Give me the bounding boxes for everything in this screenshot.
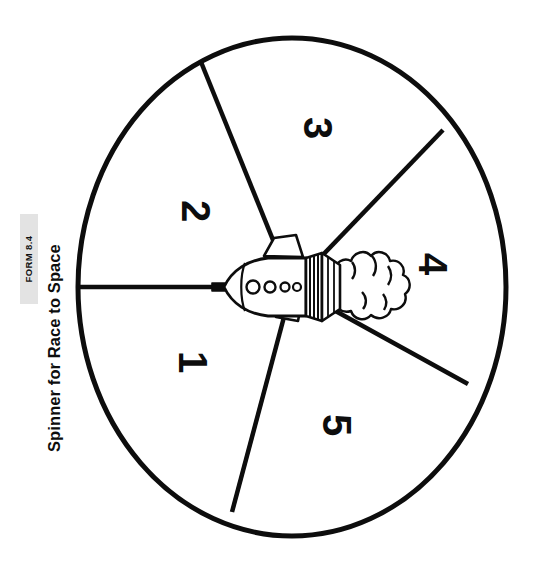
shuttle-window-4	[293, 283, 301, 291]
spinner-figure[interactable]: 1 2 3 4 5	[0, 0, 535, 568]
shuttle-window-1	[247, 281, 260, 294]
shuttle-window-2	[265, 282, 276, 293]
sector-label-1: 1	[171, 351, 215, 373]
page-canvas: FORM 8.4 Spinner for Race to Space	[0, 0, 535, 568]
shuttle-nozzle	[322, 253, 340, 321]
sector-label-4: 4	[411, 253, 455, 276]
sector-label-2: 2	[174, 200, 218, 222]
sector-label-3: 3	[296, 117, 340, 139]
sector-label-5: 5	[315, 414, 359, 436]
shuttle-window-3	[281, 283, 290, 292]
